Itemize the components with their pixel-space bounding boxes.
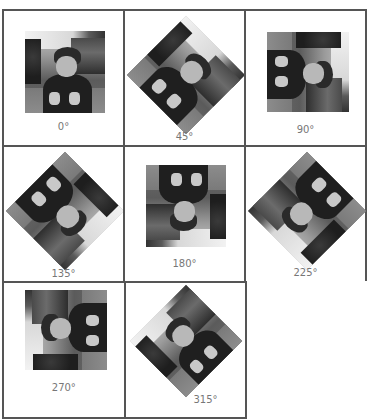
rotated-photo-135 bbox=[6, 152, 125, 271]
rotated-photo-180 bbox=[146, 165, 226, 247]
rotation-label: 90° bbox=[246, 124, 365, 135]
rotation-label: 225° bbox=[246, 267, 365, 278]
grid-cell-180: 180° bbox=[123, 145, 244, 281]
grid-row-3: 270° 315° bbox=[2, 281, 367, 419]
rotation-label: 45° bbox=[125, 131, 244, 142]
rotated-photo-0 bbox=[25, 31, 105, 113]
grid-cell-270: 270° bbox=[2, 281, 124, 419]
grid-cell-45: 45° bbox=[123, 9, 244, 145]
grid-cell-135: 135° bbox=[2, 145, 123, 281]
grid-cell-0: 0° bbox=[2, 9, 123, 145]
rotated-photo-45 bbox=[127, 16, 246, 135]
grid-cell-empty bbox=[247, 281, 367, 415]
rotated-photo-270 bbox=[25, 290, 107, 370]
rotation-label: 315° bbox=[166, 394, 246, 405]
grid-cell-225: 225° bbox=[244, 145, 367, 281]
rotated-photo-225 bbox=[248, 152, 367, 271]
rotation-label: 180° bbox=[125, 258, 244, 269]
rotation-label: 270° bbox=[4, 382, 124, 393]
rotation-label: 0° bbox=[4, 121, 123, 132]
grid-cell-90: 90° bbox=[244, 9, 367, 145]
rotation-label: 135° bbox=[4, 268, 123, 279]
grid-cell-315: 315° bbox=[124, 281, 248, 419]
grid-row-2: 135° 180° 225° bbox=[2, 145, 367, 281]
rotated-photo-315 bbox=[129, 284, 242, 397]
grid-row-1: 0° 45° 90° bbox=[2, 9, 367, 145]
rotation-grid: 0° 45° 90° 135° 180° bbox=[2, 9, 367, 419]
rotated-photo-90 bbox=[267, 32, 349, 112]
